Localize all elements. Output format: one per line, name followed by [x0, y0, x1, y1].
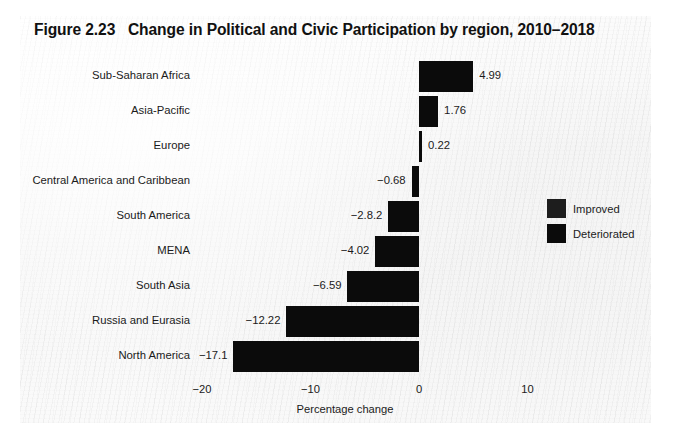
- x-axis-tick-label: −10: [301, 383, 320, 395]
- bar-central-america-and-caribbean: [412, 166, 419, 197]
- bar-mena: [375, 236, 419, 267]
- table-row: North America −17.1: [0, 340, 677, 373]
- x-axis-tick-label: −20: [193, 383, 212, 395]
- x-axis-tick-label: 10: [521, 383, 533, 395]
- legend-item-label: Improved: [573, 203, 620, 215]
- value-label: −4.02: [341, 244, 370, 256]
- bar-russia-and-eurasia: [286, 306, 419, 337]
- legend-swatch-icon: [547, 199, 566, 218]
- legend-swatch-icon: [547, 224, 566, 243]
- value-label: −17.1: [199, 349, 228, 361]
- bar-north-america: [233, 341, 419, 372]
- table-row: Asia-Pacific 1.76: [0, 95, 677, 128]
- category-label: South America: [117, 209, 190, 221]
- value-label: −2.8.2: [351, 209, 383, 221]
- bar-south-america: [388, 201, 419, 232]
- category-label: Russia and Eurasia: [92, 314, 190, 326]
- category-label: Europe: [154, 139, 190, 151]
- value-label: −6.59: [313, 279, 342, 291]
- category-label: MENA: [157, 244, 190, 256]
- bar-asia-pacific: [419, 96, 438, 127]
- value-label: −12.22: [246, 314, 281, 326]
- category-label: Central America and Caribbean: [32, 174, 190, 186]
- legend-item-label: Deteriorated: [573, 228, 635, 240]
- category-label: Sub-Saharan Africa: [92, 69, 190, 81]
- table-row: Europe 0.22: [0, 130, 677, 163]
- legend-item-deteriorated: Deteriorated: [547, 221, 635, 246]
- bar-south-asia: [347, 271, 419, 302]
- table-row: South Asia −6.59: [0, 270, 677, 303]
- table-row: Central America and Caribbean −0.68: [0, 165, 677, 198]
- table-row: Russia and Eurasia −12.22: [0, 305, 677, 338]
- x-axis-tick-label: 0: [416, 383, 422, 395]
- legend-item-improved: Improved: [547, 196, 635, 221]
- value-label: 0.22: [428, 139, 450, 151]
- x-axis-title: Percentage change: [296, 403, 393, 415]
- bar-europe: [419, 131, 422, 162]
- value-label: 4.99: [479, 69, 501, 81]
- figure-container: Figure 2.23 Change in Political and Civi…: [0, 0, 677, 443]
- category-label: Asia-Pacific: [131, 104, 190, 116]
- value-label: −0.68: [377, 174, 406, 186]
- value-label: 1.76: [444, 104, 466, 116]
- bar-sub-saharan-africa: [419, 61, 473, 92]
- category-label: South Asia: [136, 279, 190, 291]
- table-row: Sub-Saharan Africa 4.99: [0, 60, 677, 93]
- chart-legend: Improved Deteriorated: [547, 196, 635, 246]
- x-axis: −20 −10 0 10 Percentage change: [0, 383, 677, 423]
- category-label: North America: [118, 349, 190, 361]
